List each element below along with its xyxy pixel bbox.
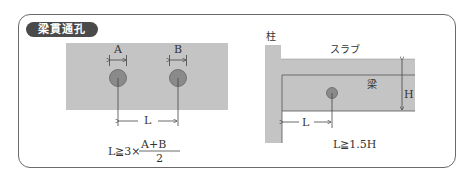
column-slab-beam	[265, 45, 415, 143]
hole-a-label: A	[114, 44, 122, 55]
distance-l-label: L	[302, 117, 309, 128]
formula-right: L≧1.5H	[333, 139, 376, 150]
left-beam	[66, 43, 228, 110]
hole-b-label: B	[174, 44, 182, 55]
formula-left-denominator: 2	[156, 153, 163, 164]
beam-label: 梁	[367, 80, 377, 90]
formula-left-numerator: A+B	[141, 139, 166, 150]
height-h-label: H	[404, 89, 414, 100]
slab-label: スラブ	[330, 45, 360, 55]
spacing-l-label: L	[144, 115, 151, 126]
column-label: 柱	[266, 32, 276, 42]
formula-left-lhs: L≧3×	[108, 146, 141, 157]
